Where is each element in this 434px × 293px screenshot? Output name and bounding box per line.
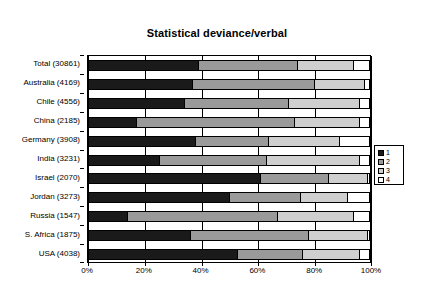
bar-segment-2[interactable] — [136, 117, 294, 128]
legend-item[interactable]: 3 — [378, 166, 403, 175]
category-label: USA (4038) — [39, 249, 80, 258]
chart-title: Statistical deviance/verbal — [0, 27, 434, 39]
bar-segment-1[interactable] — [88, 60, 198, 71]
category-label: S. Africa (1875) — [25, 230, 80, 239]
category-axis-labels: Total (30861)Australia (4169)Chile (4556… — [0, 55, 84, 263]
legend-swatch-2 — [378, 159, 384, 165]
category-label: Jordan (3273) — [30, 192, 80, 201]
bar-segment-2[interactable] — [195, 136, 268, 147]
y-axis-tick — [80, 74, 84, 75]
bar-segment-4[interactable] — [367, 173, 370, 184]
legend-label: 1 — [386, 148, 390, 157]
x-axis-label: 0% — [81, 266, 93, 275]
legend-item[interactable]: 1 — [378, 148, 403, 157]
bar-segment-4[interactable] — [359, 98, 370, 109]
x-axis-label: 40% — [193, 266, 209, 275]
bar-segment-2[interactable] — [159, 155, 266, 166]
x-axis-label: 60% — [249, 266, 265, 275]
plot-area — [87, 55, 371, 263]
category-label: China (2185) — [34, 116, 80, 125]
bar-segment-2[interactable] — [260, 173, 328, 184]
y-axis-tick — [80, 244, 84, 245]
bar-row[interactable] — [88, 117, 370, 128]
bar-segment-2[interactable] — [237, 249, 302, 260]
value-axis-labels: 0%20%40%60%80%100% — [0, 266, 434, 280]
bar-segment-1[interactable] — [88, 155, 159, 166]
category-label: Australia (4169) — [24, 78, 80, 87]
x-axis-label: 20% — [136, 266, 152, 275]
bar-row[interactable] — [88, 230, 370, 241]
bar-segment-3[interactable] — [300, 192, 348, 203]
bar-segment-1[interactable] — [88, 249, 237, 260]
x-axis-label: 80% — [306, 266, 322, 275]
bar-segment-4[interactable] — [347, 192, 370, 203]
bar-segment-3[interactable] — [297, 60, 353, 71]
category-label: Total (30861) — [33, 59, 80, 68]
legend-label: 3 — [386, 166, 390, 175]
y-axis-tick — [80, 131, 84, 132]
bar-row[interactable] — [88, 249, 370, 260]
bar-segment-2[interactable] — [192, 79, 313, 90]
bar-row[interactable] — [88, 155, 370, 166]
bar-row[interactable] — [88, 136, 370, 147]
bar-segment-3[interactable] — [308, 230, 367, 241]
bar-segment-2[interactable] — [184, 98, 288, 109]
bar-segment-2[interactable] — [190, 230, 308, 241]
bar-row[interactable] — [88, 79, 370, 90]
bar-segment-1[interactable] — [88, 173, 260, 184]
bar-row[interactable] — [88, 192, 370, 203]
y-axis-tick — [80, 262, 84, 263]
bar-row[interactable] — [88, 173, 370, 184]
bar-segment-4[interactable] — [359, 249, 370, 260]
bar-row[interactable] — [88, 211, 370, 222]
y-axis-tick — [80, 206, 84, 207]
gridline — [371, 56, 372, 262]
bar-segment-3[interactable] — [266, 155, 359, 166]
bar-segment-2[interactable] — [198, 60, 297, 71]
bar-segment-3[interactable] — [268, 136, 339, 147]
bar-segment-1[interactable] — [88, 136, 195, 147]
y-axis-tick — [80, 55, 84, 56]
bar-segment-3[interactable] — [302, 249, 358, 260]
bar-segment-1[interactable] — [88, 211, 127, 222]
legend-swatch-1 — [378, 150, 384, 156]
y-axis-tick — [80, 168, 84, 169]
bar-segment-4[interactable] — [359, 155, 370, 166]
bar-segment-1[interactable] — [88, 117, 136, 128]
bar-rows — [88, 56, 370, 262]
legend-item[interactable]: 4 — [378, 175, 403, 184]
bar-segment-1[interactable] — [88, 79, 192, 90]
bar-segment-4[interactable] — [364, 79, 370, 90]
bar-segment-2[interactable] — [127, 211, 276, 222]
category-label: Chile (4556) — [36, 97, 80, 106]
legend-swatch-3 — [378, 168, 384, 174]
bar-segment-4[interactable] — [359, 117, 370, 128]
legend-item[interactable]: 2 — [378, 157, 403, 166]
category-label: Russia (1547) — [30, 211, 80, 220]
bar-segment-2[interactable] — [229, 192, 300, 203]
bar-segment-3[interactable] — [277, 211, 353, 222]
y-axis-tick — [80, 93, 84, 94]
bar-segment-4[interactable] — [353, 211, 370, 222]
bar-segment-3[interactable] — [288, 98, 359, 109]
category-label: Germany (3908) — [22, 135, 80, 144]
bar-segment-4[interactable] — [339, 136, 370, 147]
legend-label: 2 — [386, 157, 390, 166]
bar-segment-4[interactable] — [353, 60, 370, 71]
legend-label: 4 — [386, 175, 390, 184]
bar-row[interactable] — [88, 98, 370, 109]
bar-segment-3[interactable] — [328, 173, 367, 184]
y-axis-tick — [80, 112, 84, 113]
bar-segment-1[interactable] — [88, 98, 184, 109]
bar-segment-1[interactable] — [88, 192, 229, 203]
bar-segment-4[interactable] — [367, 230, 370, 241]
bar-segment-3[interactable] — [294, 117, 359, 128]
x-axis-label: 100% — [361, 266, 381, 275]
chart-legend: 1234 — [374, 145, 404, 185]
y-axis-tick — [80, 225, 84, 226]
bar-row[interactable] — [88, 60, 370, 71]
category-label: India (3231) — [37, 154, 80, 163]
y-axis-tick — [80, 150, 84, 151]
bar-segment-3[interactable] — [314, 79, 365, 90]
bar-segment-1[interactable] — [88, 230, 190, 241]
